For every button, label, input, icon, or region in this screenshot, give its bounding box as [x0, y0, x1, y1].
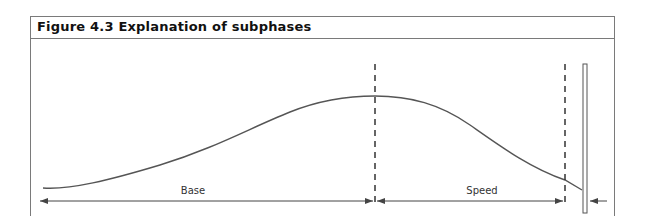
phase-label-speed: Speed — [466, 185, 497, 196]
performance-curve — [43, 96, 582, 190]
race-marker-bar — [583, 64, 587, 213]
phase-diagram — [0, 0, 645, 216]
phase-label-base: Base — [181, 185, 205, 196]
